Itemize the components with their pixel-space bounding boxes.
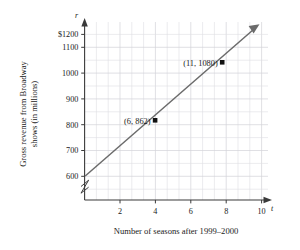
y-axis-title-line2: shows (in millions) [29,81,39,148]
y-tick-label: 1100 [62,43,78,52]
chart-canvas: 2 4 6 8 10 600 700 800 900 1000 1100 $12… [0,0,300,250]
y-tick-label: $1200 [58,30,78,39]
y-tick-label: 600 [66,172,78,181]
data-point-annotation: (11, 1080) [183,59,218,68]
data-point-annotation: (6, 862) [124,117,151,126]
y-tick-label: 1000 [62,69,78,78]
grid-lines [85,22,268,200]
x-tick-label: 6 [189,207,193,216]
x-tick-label: 4 [153,207,157,216]
x-tick-label: 2 [118,207,122,216]
x-tick-label: 10 [258,207,266,216]
y-axis-variable-label: r [75,11,79,20]
y-tick-label: 900 [66,95,78,104]
data-point-marker [220,60,225,65]
x-axis-arrowhead [264,197,273,203]
y-axis-title-line1: Gross revenue from Broadway [18,60,28,166]
data-point-marker [153,118,158,123]
y-axis-arrowhead [81,18,87,27]
x-axis-title: Number of seasons after 1999–2000 [114,226,239,236]
y-tick-label: 700 [66,146,78,155]
x-tick-label: 8 [224,207,228,216]
y-tick-label: 800 [66,121,78,130]
x-axis-variable-label: t [271,204,274,213]
chart-figure: 2 4 6 8 10 600 700 800 900 1000 1100 $12… [0,0,300,250]
